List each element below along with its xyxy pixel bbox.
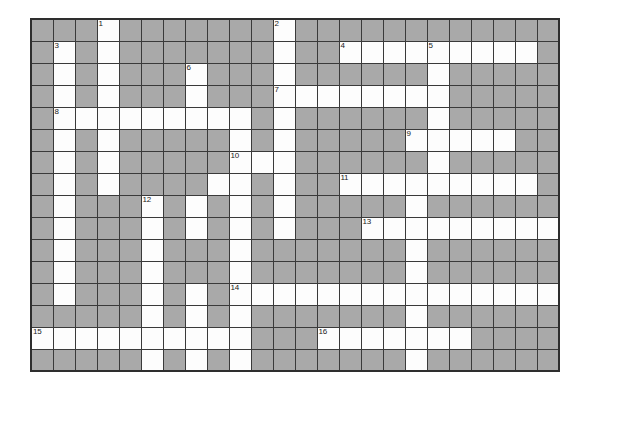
open-cell[interactable] <box>405 173 427 195</box>
open-cell[interactable] <box>207 327 229 349</box>
open-cell[interactable]: 9 <box>405 129 427 151</box>
open-cell[interactable] <box>251 283 273 305</box>
open-cell[interactable]: 15 <box>31 327 53 349</box>
open-cell[interactable] <box>229 173 251 195</box>
open-cell[interactable] <box>185 217 207 239</box>
open-cell[interactable] <box>361 41 383 63</box>
open-cell[interactable] <box>141 349 163 371</box>
open-cell[interactable] <box>427 129 449 151</box>
open-cell[interactable] <box>141 261 163 283</box>
open-cell[interactable]: 11 <box>339 173 361 195</box>
open-cell[interactable] <box>119 107 141 129</box>
open-cell[interactable] <box>163 327 185 349</box>
open-cell[interactable] <box>537 283 559 305</box>
open-cell[interactable] <box>537 217 559 239</box>
open-cell[interactable] <box>405 85 427 107</box>
open-cell[interactable] <box>493 173 515 195</box>
open-cell[interactable] <box>185 85 207 107</box>
open-cell[interactable] <box>229 195 251 217</box>
open-cell[interactable] <box>449 327 471 349</box>
open-cell[interactable] <box>97 85 119 107</box>
open-cell[interactable] <box>185 305 207 327</box>
open-cell[interactable] <box>185 283 207 305</box>
open-cell[interactable] <box>449 173 471 195</box>
open-cell[interactable] <box>339 283 361 305</box>
open-cell[interactable] <box>141 107 163 129</box>
open-cell[interactable]: 12 <box>141 195 163 217</box>
open-cell[interactable] <box>471 283 493 305</box>
open-cell[interactable]: 13 <box>361 217 383 239</box>
open-cell[interactable] <box>273 195 295 217</box>
open-cell[interactable] <box>273 283 295 305</box>
open-cell[interactable] <box>53 327 75 349</box>
open-cell[interactable] <box>383 217 405 239</box>
open-cell[interactable] <box>53 239 75 261</box>
open-cell[interactable] <box>383 327 405 349</box>
open-cell[interactable] <box>427 217 449 239</box>
open-cell[interactable] <box>229 107 251 129</box>
open-cell[interactable] <box>339 85 361 107</box>
open-cell[interactable] <box>97 129 119 151</box>
open-cell[interactable] <box>207 173 229 195</box>
open-cell[interactable] <box>405 327 427 349</box>
open-cell[interactable] <box>427 63 449 85</box>
open-cell[interactable] <box>141 327 163 349</box>
open-cell[interactable] <box>229 261 251 283</box>
open-cell[interactable] <box>185 349 207 371</box>
open-cell[interactable] <box>493 129 515 151</box>
open-cell[interactable] <box>229 305 251 327</box>
open-cell[interactable] <box>53 85 75 107</box>
open-cell[interactable] <box>53 129 75 151</box>
open-cell[interactable]: 1 <box>97 19 119 41</box>
open-cell[interactable] <box>53 63 75 85</box>
open-cell[interactable]: 16 <box>317 327 339 349</box>
open-cell[interactable]: 8 <box>53 107 75 129</box>
open-cell[interactable] <box>119 327 141 349</box>
open-cell[interactable] <box>185 327 207 349</box>
open-cell[interactable] <box>141 217 163 239</box>
open-cell[interactable] <box>515 283 537 305</box>
open-cell[interactable] <box>97 41 119 63</box>
open-cell[interactable] <box>515 41 537 63</box>
open-cell[interactable] <box>449 217 471 239</box>
open-cell[interactable] <box>251 151 273 173</box>
open-cell[interactable] <box>405 305 427 327</box>
open-cell[interactable] <box>405 261 427 283</box>
open-cell[interactable] <box>53 283 75 305</box>
open-cell[interactable] <box>53 195 75 217</box>
open-cell[interactable] <box>53 173 75 195</box>
open-cell[interactable] <box>449 41 471 63</box>
open-cell[interactable]: 3 <box>53 41 75 63</box>
open-cell[interactable] <box>273 107 295 129</box>
open-cell[interactable]: 14 <box>229 283 251 305</box>
open-cell[interactable] <box>229 217 251 239</box>
open-cell[interactable] <box>427 327 449 349</box>
open-cell[interactable] <box>471 217 493 239</box>
open-cell[interactable] <box>427 173 449 195</box>
open-cell[interactable] <box>97 173 119 195</box>
open-cell[interactable] <box>427 283 449 305</box>
open-cell[interactable] <box>383 283 405 305</box>
open-cell[interactable] <box>361 283 383 305</box>
open-cell[interactable] <box>493 283 515 305</box>
open-cell[interactable] <box>405 41 427 63</box>
open-cell[interactable] <box>405 217 427 239</box>
open-cell[interactable] <box>317 85 339 107</box>
open-cell[interactable] <box>383 41 405 63</box>
open-cell[interactable] <box>97 107 119 129</box>
open-cell[interactable] <box>295 283 317 305</box>
open-cell[interactable] <box>229 349 251 371</box>
open-cell[interactable] <box>427 151 449 173</box>
open-cell[interactable] <box>405 349 427 371</box>
open-cell[interactable] <box>449 129 471 151</box>
open-cell[interactable] <box>515 217 537 239</box>
open-cell[interactable] <box>471 173 493 195</box>
open-cell[interactable] <box>361 85 383 107</box>
open-cell[interactable] <box>515 173 537 195</box>
open-cell[interactable] <box>229 239 251 261</box>
open-cell[interactable] <box>273 63 295 85</box>
open-cell[interactable] <box>383 173 405 195</box>
open-cell[interactable] <box>493 217 515 239</box>
open-cell[interactable] <box>273 217 295 239</box>
open-cell[interactable]: 4 <box>339 41 361 63</box>
